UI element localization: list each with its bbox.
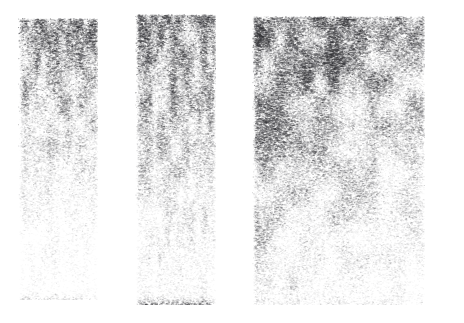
panel-right [252, 16, 425, 305]
panel-middle [135, 14, 216, 305]
panel-left-grain [18, 18, 98, 300]
panel-middle-grain [135, 14, 216, 305]
panel-right-grain [252, 16, 425, 305]
panel-left [18, 18, 98, 300]
texture-canvas-stage [0, 0, 464, 323]
